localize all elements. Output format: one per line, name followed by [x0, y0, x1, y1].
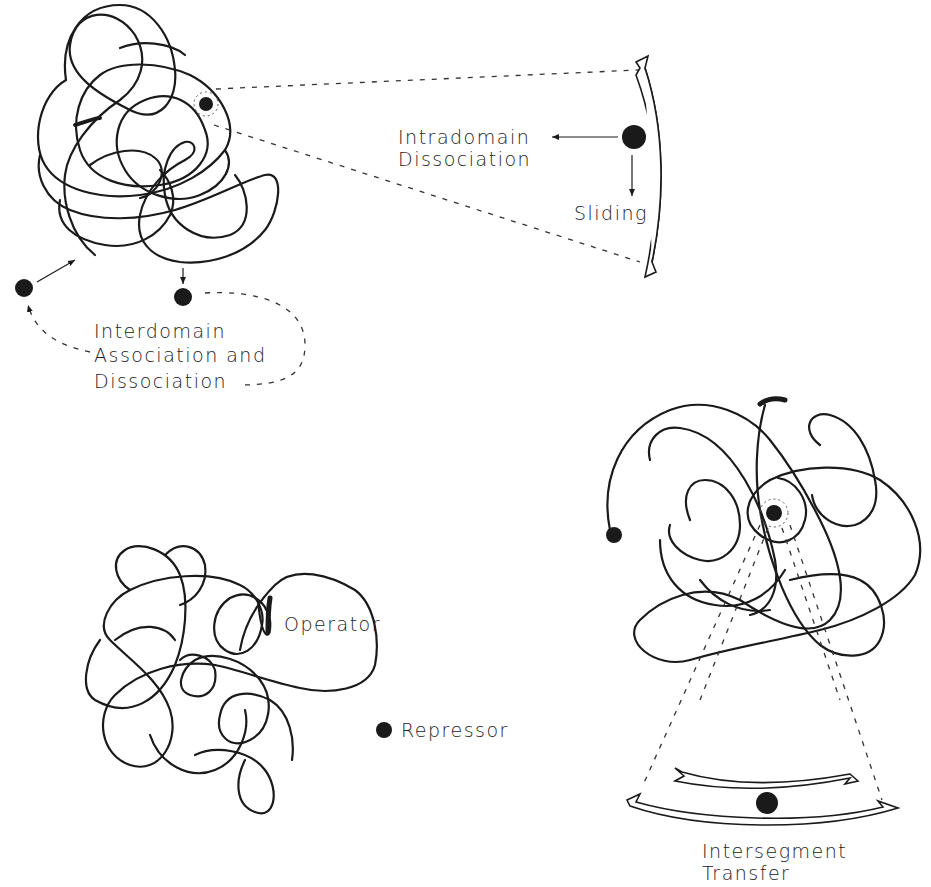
label-transfer: Transfer	[702, 862, 790, 884]
sliding-repressor-dot	[622, 125, 646, 149]
intersegment-guide-inner-right	[782, 528, 840, 700]
intersegment-guide-left	[643, 525, 760, 785]
free-repressor-dot-left	[15, 279, 33, 297]
label-association-and: Association and	[94, 344, 266, 366]
association-arrow	[37, 260, 75, 282]
dna-ribbon-upper-segment	[675, 768, 858, 788]
label-intradomain: Intradomain	[398, 126, 530, 148]
repressor-legend-dot	[376, 722, 392, 738]
interdomain-return-path-left	[28, 305, 90, 352]
label-sliding: Sliding	[574, 202, 648, 224]
bound-repressor-dot	[199, 97, 213, 111]
dna-coil-bottom-right	[608, 399, 921, 662]
dna-coil-bottom-left	[86, 546, 377, 813]
label-interdomain: Interdomain	[94, 320, 226, 342]
label-operator: Operator	[284, 613, 381, 635]
intersegment-guide-right	[790, 525, 882, 800]
bound-repressor-dot-right	[606, 527, 622, 543]
zoom-guide-line-upper	[216, 70, 638, 89]
transferring-repressor-dot	[756, 792, 778, 814]
intersegment-guide-inner-left	[700, 528, 768, 700]
label-intradomain-dissociation: Dissociation	[398, 148, 531, 170]
dna-coil-top-left	[38, 5, 278, 263]
label-intersegment: Intersegment	[702, 840, 847, 862]
intersegment-repressor-dot	[766, 505, 782, 521]
label-repressor: Repressor	[401, 719, 509, 741]
label-interdomain-dissociation: Dissociation	[94, 370, 227, 392]
free-repressor-dot-center	[174, 288, 192, 306]
